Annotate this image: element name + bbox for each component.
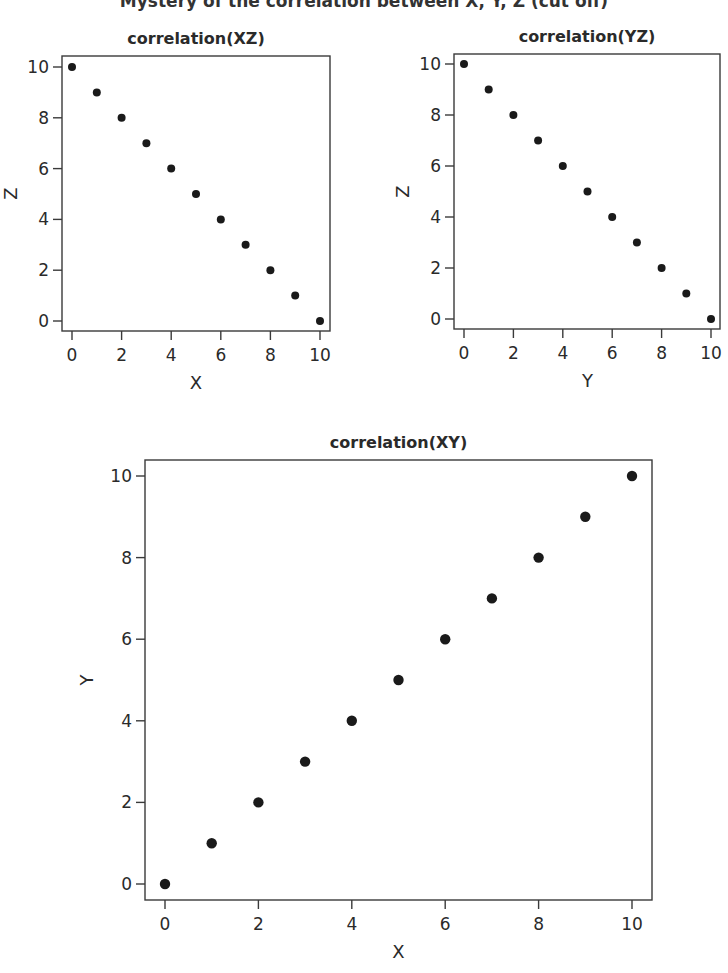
data-point — [658, 264, 666, 272]
x-tick-label: 2 — [253, 914, 264, 934]
y-axis-label: Z — [0, 187, 21, 199]
data-point — [682, 290, 690, 298]
data-point — [533, 552, 543, 562]
x-tick-label: 10 — [621, 914, 643, 934]
figure-canvas: correlation(XZ)02468100246810XZcorrelati… — [0, 0, 728, 973]
y-tick-label: 8 — [38, 108, 49, 128]
data-point — [316, 317, 324, 325]
x-tick-label: 4 — [166, 345, 177, 365]
y-tick-label: 10 — [110, 466, 132, 486]
y-tick-label: 6 — [430, 156, 441, 176]
data-point — [559, 162, 567, 170]
data-point — [300, 756, 310, 766]
x-tick-label: 2 — [508, 343, 519, 363]
data-point — [627, 471, 637, 481]
data-point — [167, 165, 175, 173]
y-tick-label: 6 — [121, 629, 132, 649]
y-tick-label: 4 — [121, 711, 132, 731]
data-point — [242, 241, 250, 249]
data-point — [192, 190, 200, 198]
data-point — [487, 593, 497, 603]
y-tick-label: 4 — [38, 209, 49, 229]
y-axis-label: Z — [392, 185, 413, 197]
scatter-panel-xz: correlation(XZ)02468100246810XZ — [0, 29, 331, 393]
y-tick-label: 10 — [419, 54, 441, 74]
x-tick-label: 2 — [116, 345, 127, 365]
data-point — [347, 716, 357, 726]
x-tick-label: 8 — [533, 914, 544, 934]
y-tick-label: 0 — [38, 311, 49, 331]
x-tick-label: 0 — [459, 343, 470, 363]
x-tick-label: 6 — [440, 914, 451, 934]
data-point — [534, 137, 542, 145]
data-point — [68, 63, 76, 71]
data-point — [266, 266, 274, 274]
data-point — [633, 239, 641, 247]
x-tick-label: 4 — [557, 343, 568, 363]
data-point — [253, 797, 263, 807]
x-axis-label: Y — [581, 370, 594, 391]
x-axis-label: X — [392, 941, 404, 962]
x-axis-label: X — [190, 372, 202, 393]
y-tick-label: 0 — [121, 874, 132, 894]
data-point — [217, 215, 225, 223]
y-tick-label: 8 — [121, 548, 132, 568]
x-tick-label: 8 — [656, 343, 667, 363]
data-point — [440, 634, 450, 644]
y-tick-label: 2 — [430, 258, 441, 278]
scatter-panel-yz: correlation(YZ)02468100246810YZ — [392, 27, 722, 391]
y-axis-label: Y — [76, 674, 97, 687]
y-tick-label: 2 — [121, 792, 132, 812]
data-point — [608, 213, 616, 221]
data-point — [160, 879, 170, 889]
y-tick-label: 0 — [430, 309, 441, 329]
x-tick-label: 10 — [309, 345, 331, 365]
x-tick-label: 10 — [700, 343, 722, 363]
panel-title: correlation(YZ) — [519, 27, 656, 46]
x-tick-label: 0 — [67, 345, 78, 365]
x-tick-label: 8 — [265, 345, 276, 365]
x-tick-label: 4 — [346, 914, 357, 934]
data-point — [580, 512, 590, 522]
data-point — [509, 111, 517, 119]
y-tick-label: 2 — [38, 260, 49, 280]
data-point — [118, 114, 126, 122]
y-tick-label: 6 — [38, 159, 49, 179]
y-tick-label: 4 — [430, 207, 441, 227]
data-point — [393, 675, 403, 685]
data-point — [207, 838, 217, 848]
y-tick-label: 10 — [27, 57, 49, 77]
data-point — [142, 139, 150, 147]
data-point — [93, 88, 101, 96]
panel-title: correlation(XZ) — [127, 29, 264, 48]
data-point — [707, 315, 715, 323]
data-point — [584, 188, 592, 196]
data-point — [485, 86, 493, 94]
y-tick-label: 8 — [430, 105, 441, 125]
scatter-panel-xy: correlation(XY)02468100246810XY — [76, 433, 652, 962]
data-point — [291, 292, 299, 300]
x-tick-label: 6 — [215, 345, 226, 365]
panel-title: correlation(XY) — [330, 433, 467, 452]
data-point — [460, 60, 468, 68]
x-tick-label: 6 — [607, 343, 618, 363]
x-tick-label: 0 — [160, 914, 171, 934]
